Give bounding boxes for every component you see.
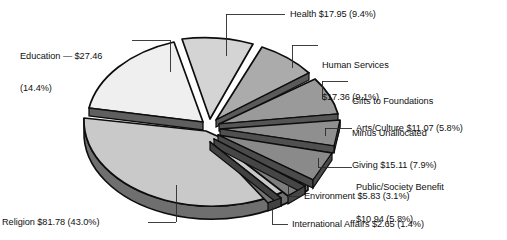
leader-line-international xyxy=(272,207,288,224)
label-education: Education — $27.46 (14.4%) xyxy=(20,30,102,115)
label-arts-culture: Arts/Culture $11.07 (5.8%) xyxy=(356,123,463,134)
label-health: Health $17.95 (9.4%) xyxy=(290,9,376,20)
label-education-line2: (14.4%) xyxy=(20,83,102,94)
label-education-line1: Education — $27.46 xyxy=(20,51,102,62)
pie-slice-education xyxy=(89,42,203,130)
label-human-services-line1: Human Services xyxy=(322,60,389,71)
label-international-affairs: International Affairs $2.65 (1.4%) xyxy=(292,219,424,230)
label-environment: Environment $5.83 (3.1%) xyxy=(304,191,410,202)
label-religion: Religion $81.78 (43.0%) xyxy=(2,217,99,228)
cropped-title-remnant xyxy=(120,0,420,3)
pie-chart-figure: Education — $27.46 (14.4%) Health $17.95… xyxy=(0,0,507,240)
label-gifts-line1: Gifts to Foundations xyxy=(352,96,437,107)
